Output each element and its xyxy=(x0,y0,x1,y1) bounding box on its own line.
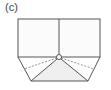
folding-diagram xyxy=(0,0,111,90)
shaded-flap-region xyxy=(31,57,88,81)
pivot-point xyxy=(57,55,62,60)
